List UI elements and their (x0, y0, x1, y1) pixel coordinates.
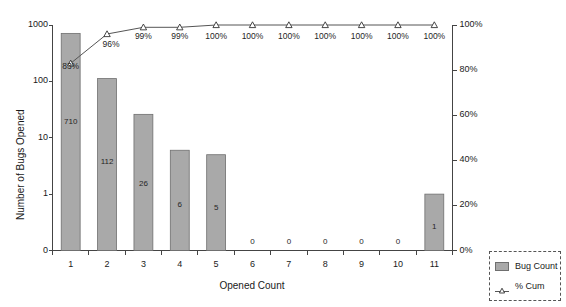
y-axis-left-ticks (49, 25, 53, 251)
y-axis-tick-label: 100 (8, 76, 48, 85)
line-triangle-marker-icon (495, 282, 509, 291)
pareto-chart: 10001001010100%80%60%40%20%0%12345678910… (0, 0, 566, 307)
cumulative-value-label: 100% (414, 32, 454, 41)
cumulative-value-label: 100% (196, 32, 236, 41)
cumulative-value-label: 83% (51, 62, 91, 71)
legend-item-cum: % Cum (495, 279, 545, 293)
x-axis-tick-label: 1 (51, 260, 91, 269)
bar-value-label: 0 (305, 238, 345, 246)
cumulative-value-label: 99% (123, 32, 163, 41)
y2-axis-tick-label: 100% (460, 20, 500, 29)
y2-axis-tick-label: 80% (460, 65, 500, 74)
bar-value-label: 1 (414, 223, 454, 231)
cumulative-value-label: 100% (233, 32, 273, 41)
x-axis-tick-label: 2 (87, 260, 127, 269)
y-axis-tick-label: 1000 (8, 20, 48, 29)
legend-item-bug-count: Bug Count (495, 259, 558, 273)
bar-value-label: 6 (160, 201, 200, 209)
x-axis-tick-label: 5 (196, 260, 236, 269)
bar-value-label: 112 (87, 158, 127, 166)
y2-axis-tick-label: 60% (460, 110, 500, 119)
x-axis-tick-label: 4 (160, 260, 200, 269)
x-axis-ticks (53, 251, 453, 255)
x-axis-tick-label: 8 (305, 260, 345, 269)
y-axis-right-ticks (453, 25, 457, 251)
legend-label-cum: % Cum (515, 281, 545, 291)
x-axis-tick-label: 11 (414, 260, 454, 269)
x-axis-tick-label: 7 (269, 260, 309, 269)
y-axis-tick-label: 0 (8, 246, 48, 255)
y2-axis-tick-label: 40% (460, 155, 500, 164)
chart-legend: Bug Count % Cum (489, 251, 561, 301)
cumulative-value-label: 100% (378, 32, 418, 41)
bar-swatch-icon (495, 262, 509, 271)
bar-value-label: 0 (342, 238, 382, 246)
y-axis-title: Number of Bugs Opened (16, 50, 26, 220)
bar-value-label: 26 (123, 180, 163, 188)
bar-value-label: 0 (233, 238, 273, 246)
x-axis-tick-label: 3 (123, 260, 163, 269)
bar-value-label: 0 (269, 238, 309, 246)
cumulative-value-label: 100% (305, 32, 345, 41)
bar-value-label: 710 (51, 118, 91, 126)
cumulative-value-label: 96% (91, 40, 131, 49)
cumulative-value-label: 100% (342, 32, 382, 41)
y-axis-tick-label: 10 (8, 133, 48, 142)
x-axis-tick-label: 10 (378, 260, 418, 269)
y2-axis-tick-label: 20% (460, 200, 500, 209)
x-axis-title: Opened Count (192, 281, 312, 291)
cumulative-value-label: 99% (160, 32, 200, 41)
y-axis-tick-label: 1 (8, 189, 48, 198)
bars-group (61, 33, 444, 250)
cumulative-value-label: 100% (269, 32, 309, 41)
bar-value-label: 0 (378, 238, 418, 246)
legend-label-bug-count: Bug Count (515, 261, 558, 271)
bar-value-label: 5 (196, 204, 236, 212)
x-axis-tick-label: 9 (342, 260, 382, 269)
x-axis-tick-label: 6 (233, 260, 273, 269)
